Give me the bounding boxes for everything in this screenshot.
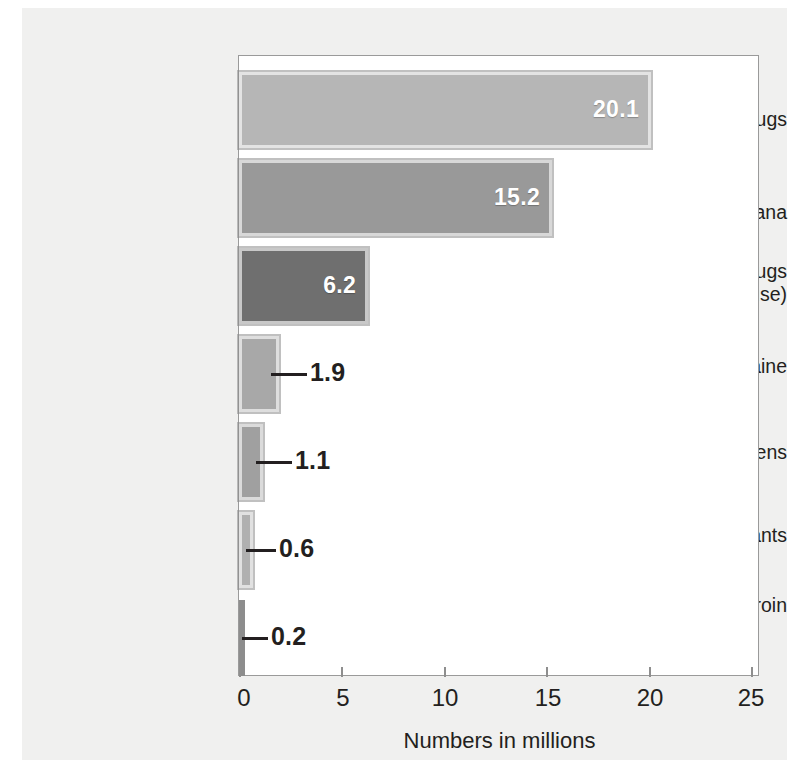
tick-mark-0: [239, 667, 241, 677]
tick-label-0: 0: [237, 684, 250, 712]
tick-label-10: 10: [432, 684, 459, 712]
bar-value-heroin: 0.2: [271, 622, 306, 651]
tick-mark-20: [649, 667, 651, 677]
bar-prescription-drugs: 6.2: [239, 248, 368, 324]
leader-line-cocaine: [271, 373, 307, 376]
tick-label-5: 5: [336, 684, 349, 712]
bar-value-prescription-drugs: 6.2: [323, 272, 356, 299]
leader-line-hallucinogens: [256, 461, 292, 464]
tick-label-15: 15: [535, 684, 562, 712]
tick-label-25: 25: [738, 684, 765, 712]
bar-marijuana: 15.2: [239, 160, 552, 236]
leader-line-inhalants: [246, 549, 276, 552]
x-axis-title: Numbers in millions: [239, 728, 760, 754]
bar-value-illicit-drugs: 20.1: [593, 96, 639, 123]
bar-value-cocaine: 1.9: [310, 358, 345, 387]
plot-area: 20.1 15.2 6.2 1.9 1.1 0.6 0.2: [238, 55, 759, 676]
tick-mark-5: [341, 667, 343, 677]
tick-mark-10: [444, 667, 446, 677]
bar-illicit-drugs: 20.1: [239, 72, 651, 148]
leader-line-heroin: [242, 637, 268, 640]
bar-value-marijuana: 15.2: [494, 184, 540, 211]
tick-mark-15: [546, 667, 548, 677]
bar-value-hallucinogens: 1.1: [295, 446, 330, 475]
tick-label-20: 20: [637, 684, 664, 712]
figure-page: Illicit drugs Marijuana Prescription dru…: [22, 8, 787, 760]
bar-value-inhalants: 0.6: [279, 534, 314, 563]
tick-mark-25: [751, 667, 753, 677]
